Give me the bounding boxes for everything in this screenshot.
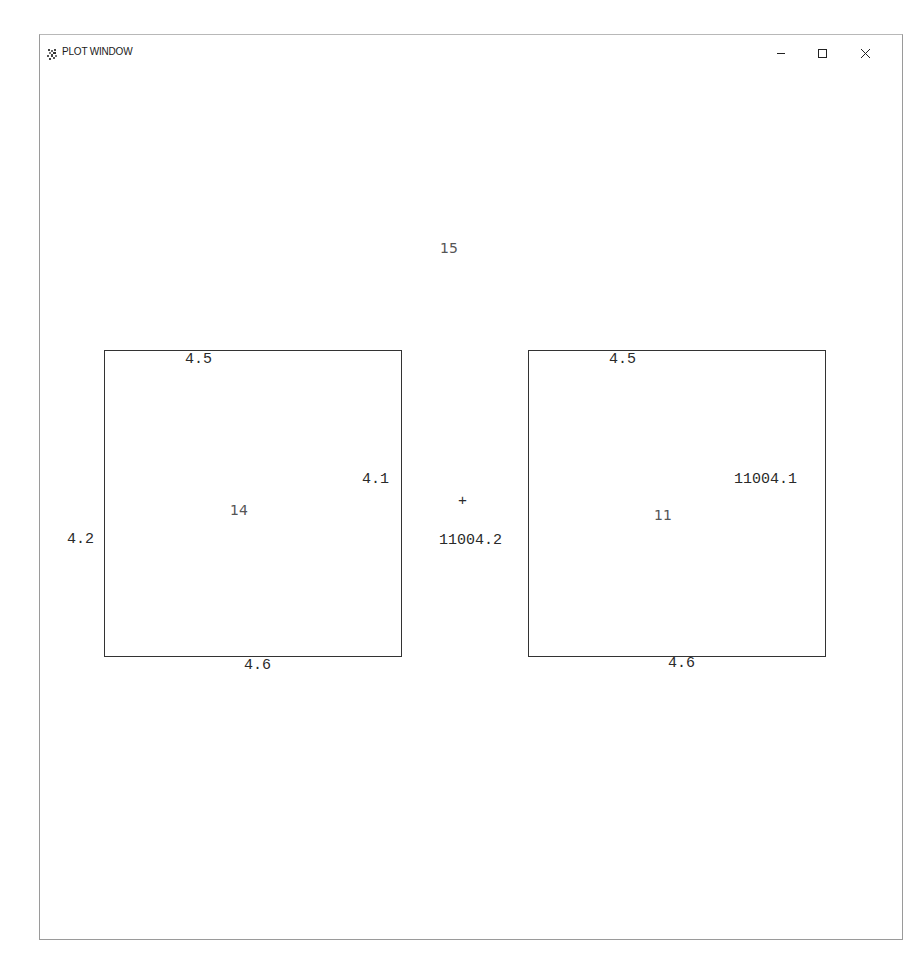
minimize-button[interactable] bbox=[766, 41, 796, 65]
maximize-button[interactable] bbox=[808, 41, 838, 65]
minimize-icon bbox=[766, 41, 796, 65]
close-icon bbox=[851, 41, 881, 65]
app-icon bbox=[47, 46, 58, 57]
close-button[interactable] bbox=[851, 41, 881, 65]
title-bar[interactable]: PLOT WINDOW bbox=[40, 35, 902, 65]
maximize-icon bbox=[808, 41, 838, 65]
window-title: PLOT WINDOW bbox=[62, 46, 132, 58]
plot-window: PLOT WINDOW bbox=[39, 34, 903, 940]
